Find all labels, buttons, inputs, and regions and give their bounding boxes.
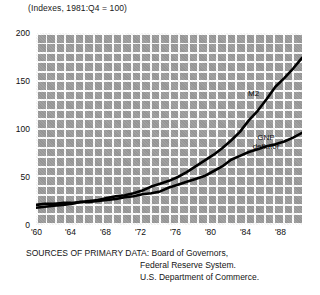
chart-title: (Indexes, 1981:Q4 = 100) xyxy=(28,3,127,13)
series-label-gnp-line1: GNP xyxy=(257,133,274,142)
y-axis-tick-200: 200 xyxy=(0,29,30,38)
y-axis-tick-100: 100 xyxy=(0,125,30,134)
x-axis-tick-60: '60 xyxy=(31,228,42,237)
plot-area: M2 GNP deflator xyxy=(36,33,302,225)
source-line-2: Federal Reserve System. xyxy=(26,259,259,271)
x-axis-tick-88: '88 xyxy=(275,228,286,237)
y-axis-tick-50: 50 xyxy=(0,173,30,182)
x-axis-tick-84: '84 xyxy=(240,228,251,237)
x-axis-tick-80: '80 xyxy=(205,228,216,237)
x-axis-tick-64: '64 xyxy=(65,228,76,237)
chart-figure: (Indexes, 1981:Q4 = 100) 200 150 100 50 … xyxy=(0,0,320,295)
x-axis-tick-68: '68 xyxy=(100,228,111,237)
y-axis-tick-0: 0 xyxy=(0,221,30,230)
series-label-m2: M2 xyxy=(248,89,259,98)
y-axis-tick-150: 150 xyxy=(0,77,30,86)
x-axis-tick-72: '72 xyxy=(135,228,146,237)
x-axis-tick-76: '76 xyxy=(170,228,181,237)
source-line-1: SOURCES OF PRIMARY DATA: Board of Govern… xyxy=(26,247,259,259)
source-note: SOURCES OF PRIMARY DATA: Board of Govern… xyxy=(26,247,259,283)
series-label-gnp-line2: deflator xyxy=(253,142,280,151)
source-line-3: U.S. Department of Commerce. xyxy=(26,271,259,283)
series-lines xyxy=(36,33,302,225)
series-label-gnp-deflator: GNP deflator xyxy=(236,133,296,151)
